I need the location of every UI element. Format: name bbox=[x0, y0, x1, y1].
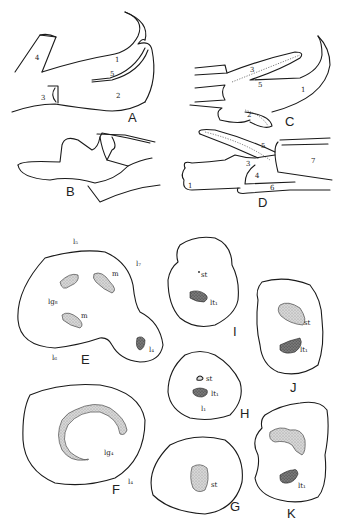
panel-k: lt₁ K bbox=[255, 402, 328, 521]
label-st: st bbox=[211, 481, 218, 489]
panel-label-i: I bbox=[233, 324, 237, 339]
panel-d: 3 5 7 4 6 1 D bbox=[182, 130, 332, 211]
label-2: 2 bbox=[116, 92, 120, 100]
label-st: st bbox=[201, 271, 208, 279]
panel-label-a: A bbox=[128, 110, 137, 125]
panel-label-e: E bbox=[81, 352, 90, 367]
label-5: 5 bbox=[110, 70, 114, 78]
label-3: 3 bbox=[246, 160, 250, 168]
anatomical-figure: 4 1 5 2 3 A 3 5 1 2 C B bbox=[0, 0, 345, 528]
label-st: st bbox=[206, 375, 213, 383]
panel-h: st lt₁ l₁ H bbox=[168, 352, 249, 422]
panel-label-b: B bbox=[66, 184, 75, 199]
panel-c: 3 5 1 2 C bbox=[190, 36, 330, 129]
label-l6: l₆ bbox=[52, 354, 57, 362]
label-lg4: lg₄ bbox=[104, 449, 114, 457]
label-2: 2 bbox=[247, 111, 251, 119]
panel-j: st lt₁ J bbox=[257, 279, 323, 395]
label-1: 1 bbox=[115, 56, 119, 64]
label-lt1: lt₁ bbox=[211, 390, 219, 398]
panel-e: l₅ l₇ m lg₈ m l₆ l₄ E bbox=[18, 238, 163, 367]
panel-label-g: G bbox=[230, 499, 240, 514]
label-l4: l₄ bbox=[149, 346, 154, 354]
panel-b: B bbox=[18, 133, 160, 202]
label-1: 1 bbox=[188, 182, 192, 190]
label-lt1: lt₁ bbox=[298, 482, 306, 490]
label-3: 3 bbox=[41, 94, 45, 102]
panel-label-j: J bbox=[290, 380, 297, 395]
label-m: m bbox=[81, 312, 88, 320]
panel-f: lg₄ l₄ F bbox=[23, 384, 145, 497]
label-5: 5 bbox=[261, 142, 265, 150]
panel-label-c: C bbox=[285, 114, 294, 129]
panel-g: st G bbox=[151, 437, 242, 514]
label-l1: l₁ bbox=[201, 405, 206, 413]
label-m: m bbox=[112, 270, 119, 278]
panel-label-h: H bbox=[240, 406, 249, 421]
label-l7: l₇ bbox=[136, 260, 141, 268]
panel-label-f: F bbox=[112, 482, 120, 497]
label-7: 7 bbox=[311, 157, 315, 165]
label-1: 1 bbox=[301, 86, 305, 94]
label-4: 4 bbox=[255, 172, 260, 180]
label-st: st bbox=[304, 319, 311, 327]
panel-label-d: D bbox=[258, 195, 267, 210]
label-3: 3 bbox=[250, 66, 254, 74]
label-5: 5 bbox=[258, 81, 262, 89]
label-l4: l₄ bbox=[128, 478, 133, 486]
label-lt1: lt₁ bbox=[300, 346, 308, 354]
label-4: 4 bbox=[35, 54, 40, 62]
label-lt1: lt₁ bbox=[210, 299, 218, 307]
label-lg8: lg₈ bbox=[48, 298, 58, 306]
panel-i: st lt₁ I bbox=[168, 237, 238, 339]
label-l5: l₅ bbox=[73, 238, 78, 246]
label-6: 6 bbox=[270, 184, 275, 192]
panel-a: 4 1 5 2 3 A bbox=[12, 12, 154, 125]
panel-label-k: K bbox=[287, 506, 296, 521]
